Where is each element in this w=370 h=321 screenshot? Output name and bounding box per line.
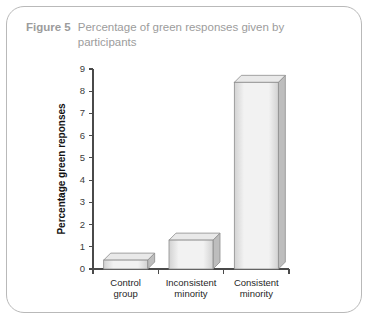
x-category-label: Inconsistentminority bbox=[166, 277, 217, 299]
bar-chart: 0123456789 ControlgroupInconsistentminor… bbox=[7, 51, 363, 313]
y-tick-label: 6 bbox=[80, 130, 85, 141]
y-tick-label: 9 bbox=[80, 63, 85, 74]
y-tick-label: 0 bbox=[80, 263, 85, 274]
bar bbox=[234, 75, 285, 269]
x-axis bbox=[93, 269, 289, 274]
chart-svg: 0123456789 ControlgroupInconsistentminor… bbox=[7, 51, 363, 313]
bar bbox=[169, 233, 220, 269]
y-tick-label: 1 bbox=[80, 241, 85, 252]
y-axis: 0123456789 bbox=[80, 63, 93, 274]
y-axis-title: Percentage green reponses bbox=[56, 103, 67, 235]
figure-card: Figure 5 Percentage of green responses g… bbox=[6, 6, 362, 313]
y-tick-label: 8 bbox=[80, 85, 85, 96]
x-category-label: Controlgroup bbox=[110, 277, 141, 299]
y-tick-label: 2 bbox=[80, 219, 85, 230]
x-category-label: Consistentminority bbox=[234, 277, 279, 299]
y-tick-label: 7 bbox=[80, 107, 85, 118]
figure-caption: Figure 5 Percentage of green responses g… bbox=[26, 20, 326, 49]
y-tick-label: 5 bbox=[80, 152, 85, 163]
figure-number-label: Figure 5 bbox=[26, 20, 78, 35]
bar bbox=[104, 253, 155, 269]
category-labels: ControlgroupInconsistentminorityConsiste… bbox=[110, 277, 279, 299]
figure-caption-text: Percentage of green responses given by p… bbox=[78, 20, 326, 49]
y-tick-label: 3 bbox=[80, 196, 85, 207]
bar-series bbox=[104, 75, 286, 269]
y-tick-label: 4 bbox=[80, 174, 85, 185]
